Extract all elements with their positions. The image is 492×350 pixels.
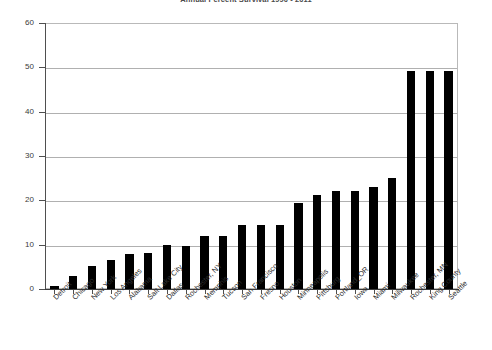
bar[interactable] bbox=[276, 225, 284, 289]
bar[interactable] bbox=[444, 71, 452, 289]
chart-title: Annual Percent Survival 1990 - 2011 bbox=[0, 0, 492, 4]
y-axis-label-30: 30 bbox=[0, 152, 34, 160]
y-axis-label-10: 10 bbox=[0, 241, 34, 249]
y-tick-0 bbox=[39, 289, 45, 290]
y-axis-label-0: 0 bbox=[0, 285, 34, 293]
bar[interactable] bbox=[407, 71, 415, 289]
y-axis-label-40: 40 bbox=[0, 108, 34, 116]
bar[interactable] bbox=[369, 187, 377, 289]
bar[interactable] bbox=[426, 71, 434, 289]
y-axis-label-50: 50 bbox=[0, 63, 34, 71]
bar-chart: Annual Percent Survival 1990 - 2011 0102… bbox=[0, 0, 492, 350]
bar[interactable] bbox=[388, 178, 396, 289]
y-axis-label-20: 20 bbox=[0, 196, 34, 204]
y-axis-label-60: 60 bbox=[0, 19, 34, 27]
bars-layer bbox=[45, 23, 458, 289]
